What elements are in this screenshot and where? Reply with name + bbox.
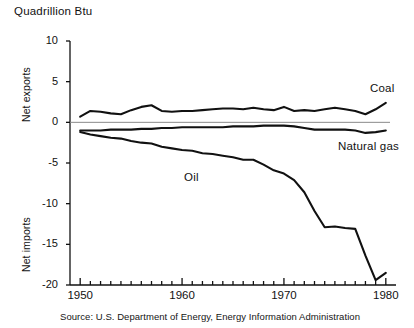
chart-figure: Quadrillion Btu Net exports Net imports … — [0, 0, 414, 328]
axis-ticks — [66, 41, 386, 285]
series-lines — [80, 103, 386, 280]
series-label-oil: Oil — [184, 171, 199, 183]
chart-unit-title: Quadrillion Btu — [14, 5, 92, 17]
series-label-coal: Coal — [370, 82, 394, 94]
x-tick-label: 1950 — [55, 289, 105, 301]
series-label-natural-gas: Natural gas — [338, 140, 399, 152]
series-line-coal — [80, 103, 386, 117]
x-tick-label: 1980 — [361, 289, 411, 301]
y-tick-label: -20 — [22, 278, 58, 290]
y-tick-label: -10 — [22, 197, 58, 209]
source-note: Source: U.S. Department of Energy, Energ… — [60, 311, 360, 322]
x-tick-label: 1970 — [259, 289, 309, 301]
x-tick-label: 1960 — [157, 289, 207, 301]
axis-lines — [70, 41, 396, 285]
y-tick-label: 5 — [22, 75, 58, 87]
series-line-oil — [80, 132, 386, 280]
y-tick-label: -5 — [22, 156, 58, 168]
y-tick-label: 10 — [22, 34, 58, 46]
series-line-natural-gas — [80, 126, 386, 133]
y-tick-label: 0 — [22, 115, 58, 127]
y-tick-label: -15 — [22, 237, 58, 249]
plot-area — [0, 0, 414, 328]
